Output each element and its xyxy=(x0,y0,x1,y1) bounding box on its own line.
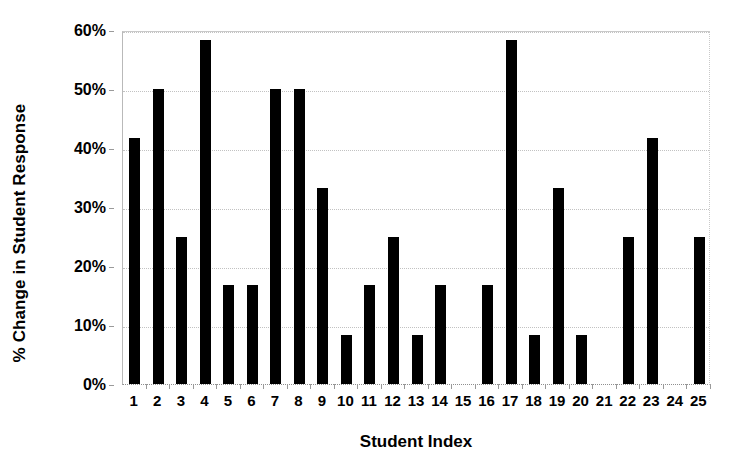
bar xyxy=(364,285,375,384)
x-tick-label: 20 xyxy=(572,392,589,409)
bar-chart-figure: % Change in Student Response 0%10%20%30%… xyxy=(0,0,732,466)
x-tick-mark xyxy=(710,384,711,389)
x-tick-label: 7 xyxy=(271,392,279,409)
y-tick-label: 10% xyxy=(74,317,106,335)
x-tick-mark xyxy=(146,384,147,389)
x-tick-mark xyxy=(475,384,476,389)
y-tick-mark xyxy=(109,267,114,268)
x-tick-mark xyxy=(686,384,687,389)
bar xyxy=(623,237,634,385)
bar xyxy=(129,138,140,384)
x-tick-label: 15 xyxy=(455,392,472,409)
bar xyxy=(482,285,493,384)
bar xyxy=(270,89,281,384)
x-tick-mark xyxy=(569,384,570,389)
x-tick-label: 13 xyxy=(408,392,425,409)
bar xyxy=(435,285,446,384)
bar xyxy=(223,285,234,384)
x-axis-tick-labels: 1234567891011121314151617181920212223242… xyxy=(122,392,710,416)
plot-area xyxy=(122,31,710,385)
x-tick-label: 14 xyxy=(431,392,448,409)
y-axis-title: % Change in Student Response xyxy=(0,0,40,466)
y-tick-mark xyxy=(109,208,114,209)
x-tick-mark xyxy=(216,384,217,389)
bar xyxy=(529,335,540,384)
bar xyxy=(576,335,587,384)
x-tick-label: 6 xyxy=(247,392,255,409)
bar xyxy=(247,285,258,384)
x-tick-label: 8 xyxy=(294,392,302,409)
x-tick-label: 4 xyxy=(200,392,208,409)
x-axis-title: Student Index xyxy=(122,432,710,452)
y-tick-mark xyxy=(109,326,114,327)
y-tick-label: 0% xyxy=(83,376,106,394)
x-tick-mark xyxy=(451,384,452,389)
x-tick-mark xyxy=(310,384,311,389)
bar xyxy=(694,237,705,385)
bar xyxy=(412,335,423,384)
y-tick-label: 20% xyxy=(74,258,106,276)
bar xyxy=(553,188,564,384)
x-tick-mark xyxy=(357,384,358,389)
y-tick-label: 60% xyxy=(74,22,106,40)
x-tick-mark xyxy=(169,384,170,389)
x-tick-label: 19 xyxy=(549,392,566,409)
y-tick-label: 50% xyxy=(74,81,106,99)
x-tick-mark xyxy=(616,384,617,389)
x-tick-label: 23 xyxy=(643,392,660,409)
bar xyxy=(200,40,211,384)
x-tick-label: 1 xyxy=(130,392,138,409)
bar xyxy=(388,237,399,385)
bar xyxy=(153,89,164,384)
x-tick-mark xyxy=(498,384,499,389)
x-tick-label: 17 xyxy=(502,392,519,409)
x-tick-mark xyxy=(334,384,335,389)
bar xyxy=(506,40,517,384)
x-tick-label: 18 xyxy=(525,392,542,409)
x-tick-label: 21 xyxy=(596,392,613,409)
x-tick-label: 9 xyxy=(318,392,326,409)
x-tick-mark xyxy=(381,384,382,389)
x-tick-mark xyxy=(428,384,429,389)
x-tick-label: 2 xyxy=(153,392,161,409)
x-tick-mark xyxy=(240,384,241,389)
y-tick-mark xyxy=(109,90,114,91)
y-tick-label: 40% xyxy=(74,140,106,158)
y-tick-mark xyxy=(109,149,114,150)
x-tick-mark xyxy=(287,384,288,389)
x-tick-label: 11 xyxy=(361,392,377,409)
y-tick-mark xyxy=(109,385,114,386)
x-tick-label: 16 xyxy=(478,392,495,409)
bar-series xyxy=(123,32,709,384)
x-tick-label: 25 xyxy=(690,392,707,409)
x-tick-mark xyxy=(639,384,640,389)
bar xyxy=(294,89,305,384)
bar xyxy=(176,237,187,385)
x-tick-label: 12 xyxy=(384,392,401,409)
y-axis-tick-labels: 0%10%20%30%40%50%60% xyxy=(52,31,114,385)
x-tick-label: 3 xyxy=(177,392,185,409)
y-tick-mark xyxy=(109,31,114,32)
x-tick-label: 24 xyxy=(666,392,683,409)
x-tick-mark xyxy=(404,384,405,389)
bar xyxy=(647,138,658,384)
x-tick-mark xyxy=(545,384,546,389)
y-tick-label: 30% xyxy=(74,199,106,217)
x-tick-label: 5 xyxy=(224,392,232,409)
x-tick-mark xyxy=(193,384,194,389)
x-tick-label: 22 xyxy=(619,392,636,409)
bar xyxy=(341,335,352,384)
x-tick-label: 10 xyxy=(337,392,354,409)
x-tick-mark xyxy=(263,384,264,389)
x-tick-mark xyxy=(663,384,664,389)
x-tick-mark xyxy=(522,384,523,389)
bar xyxy=(317,188,328,384)
x-tick-mark xyxy=(592,384,593,389)
